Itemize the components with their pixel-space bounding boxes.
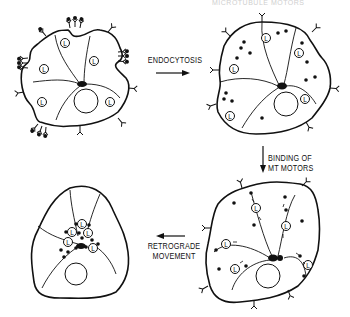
binding-label-line1: BINDING OF <box>268 153 336 163</box>
cell-endocytosed <box>207 13 340 134</box>
binding-arrow <box>260 146 266 173</box>
cell-initial <box>15 16 138 138</box>
endocytosis-arrow <box>156 70 190 76</box>
binding-label-line2: MT MOTORS <box>268 163 336 173</box>
cell-motor-binding <box>199 178 320 309</box>
retrograde-label-line1: RETROGRADE <box>143 241 204 251</box>
binding-label: BINDING OF MT MOTORS <box>268 153 336 173</box>
retrograde-label: RETROGRADE MOVEMENT <box>143 241 204 261</box>
cell-retrograde <box>32 186 129 298</box>
retrograde-label-line2: MOVEMENT <box>143 251 204 261</box>
retrograde-arrow <box>156 233 185 239</box>
endocytosis-label: ENDOCYTOSIS <box>141 55 209 65</box>
